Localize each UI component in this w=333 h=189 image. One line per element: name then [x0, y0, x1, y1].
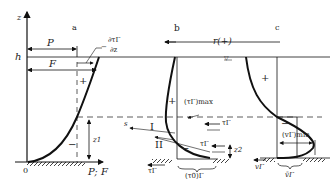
mean-velocity-label: v̄Γ	[285, 172, 294, 179]
max-stress-label: (τΓ)max	[184, 99, 213, 106]
panel-b-label: b	[174, 24, 180, 33]
minus-sign-c: −	[281, 119, 289, 129]
plus-sign-c: +	[261, 73, 269, 83]
z1-label: z1	[93, 137, 101, 144]
min-velocity-label: (vΓ)min	[282, 132, 310, 139]
gradient-sign: −	[101, 44, 107, 51]
plus-sign-b: +	[168, 96, 176, 106]
z-axis-label: z	[17, 14, 21, 22]
p-label: P	[47, 38, 54, 48]
origin-label: 0	[23, 167, 28, 175]
plus-sign-a: +	[79, 76, 87, 86]
surface-label: h	[15, 52, 21, 62]
f-label: F	[49, 59, 56, 69]
bottom-stress-label: (τ0)Γ	[185, 173, 204, 180]
bottom-hatch-a	[27, 162, 85, 166]
tau-label-upper: τΓ	[222, 120, 231, 127]
gradient-numerator: ∂τΓ	[108, 37, 120, 44]
z2-label: z2	[234, 147, 242, 154]
panel-c-label: c	[275, 24, 279, 32]
tau-label-lower: τΓ	[200, 141, 209, 148]
diagram-canvas	[0, 0, 333, 189]
bottom-velocity-label: vΓ	[255, 164, 264, 171]
wind-label: r(+)	[213, 37, 232, 46]
minus-sign-b: −	[181, 144, 189, 154]
curve-a	[28, 57, 99, 162]
bottom-tau-label: τΓ	[148, 168, 157, 175]
zone-1-label: I	[150, 122, 154, 132]
water-surface-symbol: ▽	[224, 55, 229, 61]
zone-2-label: II	[155, 140, 163, 150]
gradient-denominator: ∂z	[110, 47, 117, 54]
horizontal-axis-label: P; F	[88, 167, 108, 177]
s-label: s	[124, 121, 128, 128]
panel-a-label: a	[72, 24, 77, 32]
minus-sign-a: −	[68, 140, 76, 150]
